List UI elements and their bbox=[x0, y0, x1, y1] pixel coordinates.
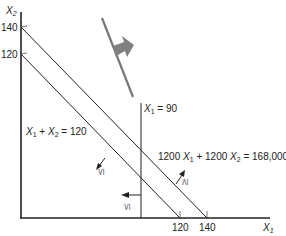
constraint-label-x1-90: X1 = 90 bbox=[143, 103, 178, 115]
y-tick-label-120: 120 bbox=[1, 49, 18, 60]
cost-arrowhead-icon bbox=[179, 170, 185, 177]
y-axis-label: X2 bbox=[5, 5, 17, 17]
sum120-inequality-symbol: ≤ bbox=[95, 168, 106, 176]
constraint-line-140 bbox=[21, 27, 207, 218]
cost-inequality-symbol: ≥ bbox=[179, 178, 190, 186]
x-tick-label-120: 120 bbox=[172, 222, 189, 233]
x1limit-inequality-symbol: ≤ bbox=[121, 203, 132, 211]
objective-direction-arrow-icon bbox=[113, 36, 134, 57]
lp-diagram: X2 140 120 120 140 X1 X1 = 90 X1 + X2 = … bbox=[0, 0, 286, 236]
y-tick-120 bbox=[21, 53, 27, 54]
x1limit-arrowhead-icon bbox=[121, 192, 129, 198]
constraint-label-sum-120: X1 + X2 = 120 bbox=[25, 126, 87, 138]
constraint-label-cost: 1200 X1 + 1200 X2 = 168,000 bbox=[158, 151, 286, 163]
x-tick-label-140: 140 bbox=[199, 222, 216, 233]
x-axis-label: X1 bbox=[262, 222, 274, 234]
y-tick-140 bbox=[21, 26, 27, 27]
y-tick-label-140: 140 bbox=[1, 22, 18, 33]
objective-line bbox=[102, 18, 133, 97]
